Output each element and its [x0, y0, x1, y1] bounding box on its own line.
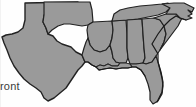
caption-text-fragment: ront — [0, 80, 20, 93]
southeast-us-map — [0, 0, 196, 107]
state-shape-mississippi — [110, 20, 128, 63]
state-shape-oklahoma — [43, 2, 93, 34]
map-graphic-screenshot: ront — [0, 0, 196, 107]
map-land-group — [2, 2, 194, 104]
